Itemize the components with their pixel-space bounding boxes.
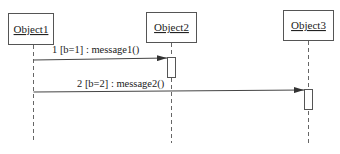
sequence-diagram: Object1 Object2 Object3 1 [b=1] : messag… xyxy=(0,0,340,154)
object3: Object3 xyxy=(284,11,334,144)
object1: Object1 xyxy=(9,14,54,144)
message-2-label: 2 [b=2] : message2() xyxy=(77,78,165,90)
message-2: 2 [b=2] : message2() xyxy=(34,78,305,92)
message-1-label: 1 [b=1] : message1() xyxy=(52,44,140,56)
message-2-arrow xyxy=(34,90,305,92)
object2-label: Object2 xyxy=(154,21,189,33)
message-1: 1 [b=1] : message1() xyxy=(34,44,168,60)
object2-activation xyxy=(168,58,176,78)
object3-activation xyxy=(305,90,313,110)
object3-label: Object3 xyxy=(291,19,326,31)
object1-label: Object1 xyxy=(14,23,49,35)
message-1-arrow xyxy=(34,58,168,60)
